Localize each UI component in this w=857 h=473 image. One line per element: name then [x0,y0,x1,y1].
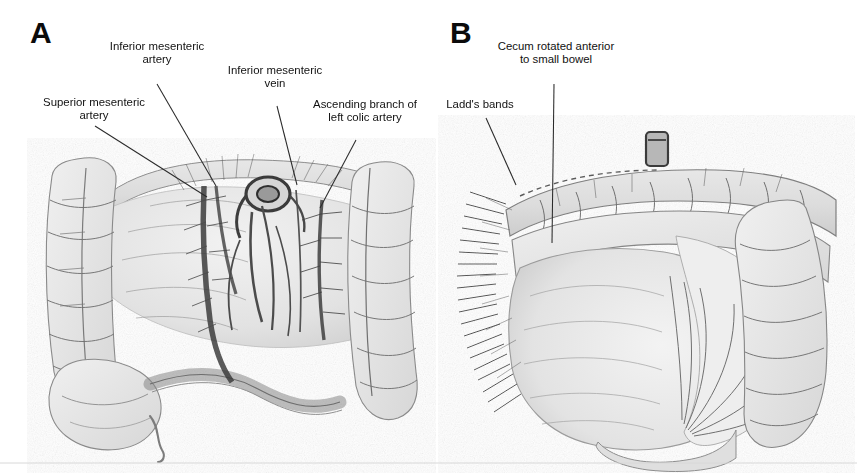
label-ladds-bands: Ladd's bands [432,98,528,111]
panel-a-artwork [46,154,417,462]
label-cecum-rotated-anterior-to-small-bowel: Cecum rotated anterior to small bowel [483,40,629,67]
figure-canvas: A B Superior mesenteric artery Inferior … [0,0,857,473]
leader-ladds-bands [486,118,516,185]
descending-colon-a [348,162,417,420]
panel-letter-a: A [30,18,52,48]
leader-cecum-rotated-anterior [552,84,554,243]
appendix-stump [646,132,668,166]
label-ascending-branch-left-colic-artery: Ascending branch of left colic artery [297,98,433,125]
label-inferior-mesenteric-artery: Inferior mesenteric artery [95,40,219,67]
cecum-panel-a [49,359,161,450]
label-superior-mesenteric-artery: Superior mesenteric artery [14,96,174,123]
panel-letter-b: B [450,18,472,48]
anatomy-illustration [0,0,857,473]
label-inferior-mesenteric-vein: Inferior mesenteric vein [213,64,337,91]
small-bowel-loop-a [150,375,342,415]
descending-colon-b [735,200,827,447]
panel-b-artwork [457,132,836,472]
